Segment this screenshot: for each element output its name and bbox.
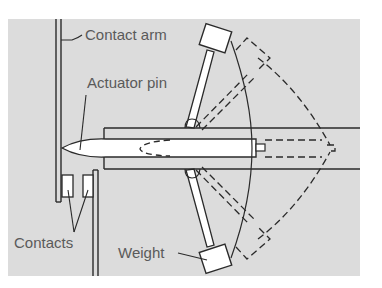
contact-right [83, 175, 93, 197]
label-contacts: Contacts [14, 234, 73, 251]
label-weight: Weight [118, 244, 165, 261]
inertia-switch-diagram: Contact arm Actuator pin Contacts Weight [0, 0, 382, 288]
label-actuator-pin: Actuator pin [87, 74, 167, 91]
pin-stub [256, 144, 265, 151]
contact-left [62, 175, 73, 197]
label-contact-arm: Contact arm [85, 26, 167, 43]
